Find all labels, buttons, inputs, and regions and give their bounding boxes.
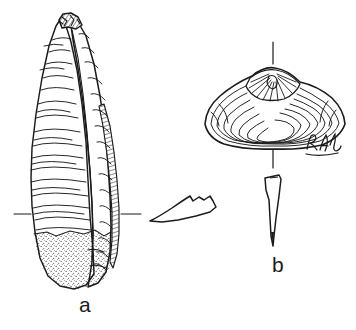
plate-artwork xyxy=(0,0,356,330)
inset-tapering-profile xyxy=(265,175,281,246)
specimen-a xyxy=(14,13,141,289)
specimen-a-growth-lines-left xyxy=(31,38,91,230)
figure-label-b: b xyxy=(272,254,284,275)
specimen-b xyxy=(205,42,345,168)
figure-label-a: a xyxy=(79,294,91,315)
inset-valve-cross-section xyxy=(150,196,216,222)
specimen-a-stippled-base xyxy=(34,230,113,289)
specimen-b-growth-lines xyxy=(211,86,339,146)
illustration-plate: a b xyxy=(0,0,356,330)
